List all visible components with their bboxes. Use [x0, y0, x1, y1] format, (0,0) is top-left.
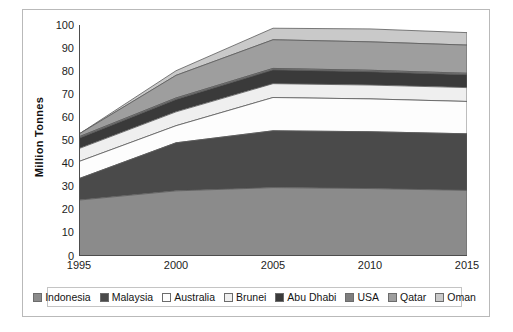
legend-swatch-icon	[33, 293, 42, 302]
y-axis-tick-label: 80	[44, 66, 74, 77]
y-axis-tick-label: 60	[44, 112, 74, 123]
y-axis-tick-label: 40	[44, 158, 74, 169]
area-band-indonesia	[79, 188, 467, 256]
legend-item-label: Qatar	[400, 292, 426, 303]
legend-item-label: Brunei	[236, 292, 266, 303]
legend-item-label: Oman	[447, 292, 476, 303]
chart-screenshot: Million Tonnes 0102030405060708090100 19…	[0, 0, 513, 332]
y-axis-tick-label: 20	[44, 204, 74, 215]
legend-item-usa[interactable]: USA	[345, 292, 379, 303]
y-axis-tick-label: 90	[44, 43, 74, 54]
stacked-area-plot	[79, 25, 467, 256]
legend-swatch-icon	[224, 293, 233, 302]
legend-swatch-icon	[100, 293, 109, 302]
y-axis-tick-label: 70	[44, 89, 74, 100]
y-axis-tick-label: 10	[44, 227, 74, 238]
legend-item-indonesia[interactable]: Indonesia	[33, 292, 91, 303]
legend-item-oman[interactable]: Oman	[435, 292, 476, 303]
legend-item-australia[interactable]: Australia	[162, 292, 215, 303]
x-axis-tick-label: 1995	[67, 259, 91, 271]
legend-item-label: Indonesia	[45, 292, 91, 303]
legend-item-qatar[interactable]: Qatar	[388, 292, 426, 303]
y-axis-tick-label: 50	[44, 135, 74, 146]
y-axis-tick-labels: 0102030405060708090100	[40, 25, 74, 256]
legend-item-label: Abu Dhabi	[287, 292, 336, 303]
x-axis-tick-label: 2010	[358, 259, 382, 271]
legend-item-label: Australia	[174, 292, 215, 303]
legend-item-abu-dhabi[interactable]: Abu Dhabi	[275, 292, 336, 303]
x-axis-tick-label: 2000	[164, 259, 188, 271]
legend-item-brunei[interactable]: Brunei	[224, 292, 266, 303]
y-axis-tick-label: 30	[44, 181, 74, 192]
legend-item-label: Malaysia	[112, 292, 153, 303]
plot-area	[79, 25, 467, 256]
legend-swatch-icon	[435, 293, 444, 302]
chart-legend: IndonesiaMalaysiaAustraliaBruneiAbu Dhab…	[47, 287, 462, 307]
legend-item-malaysia[interactable]: Malaysia	[100, 292, 153, 303]
legend-swatch-icon	[162, 293, 171, 302]
x-axis-tick-label: 2005	[261, 259, 285, 271]
y-axis-tick-label: 100	[44, 20, 74, 31]
x-axis-tick-labels: 19952000200520102015	[79, 259, 467, 275]
legend-item-label: USA	[357, 292, 379, 303]
x-axis-tick-label: 2015	[455, 259, 479, 271]
legend-swatch-icon	[388, 293, 397, 302]
legend-swatch-icon	[345, 293, 354, 302]
legend-swatch-icon	[275, 293, 284, 302]
